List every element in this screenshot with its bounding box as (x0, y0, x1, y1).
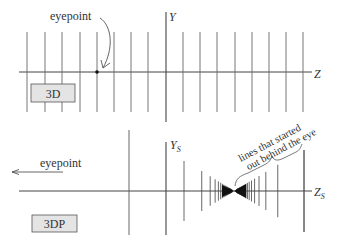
eyepoint-label: eyepoint (50, 9, 92, 23)
top-panel-3d: eyepoint Y Z 3D (19, 9, 321, 122)
zs-axis-label: ZS (314, 185, 325, 201)
bottom-panel-3dp: eyepoint YS ZS 3DP lines that started ou… (12, 116, 325, 235)
z-axis-label: Z (314, 67, 321, 81)
ys-axis-label: YS (170, 138, 181, 154)
eyepoint-dot (95, 70, 99, 74)
projection-diagram: eyepoint Y Z 3D eyepoint YS ZS 3DP lines… (0, 0, 342, 249)
eyepoint-label: eyepoint (40, 156, 82, 170)
y-axis-label: Y (169, 10, 177, 24)
label-3dp: 3DP (44, 217, 66, 231)
label-3d: 3D (46, 87, 61, 101)
